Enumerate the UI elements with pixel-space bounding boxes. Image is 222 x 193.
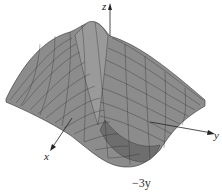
x-axis-arrow bbox=[50, 144, 56, 151]
z-axis-arrow bbox=[108, 3, 112, 10]
surface-plot bbox=[0, 0, 222, 193]
z-axis-label: z bbox=[102, 0, 106, 12]
caption-text: −3y bbox=[132, 176, 151, 191]
x-axis-label: x bbox=[44, 150, 49, 162]
y-axis-label: y bbox=[214, 129, 219, 141]
